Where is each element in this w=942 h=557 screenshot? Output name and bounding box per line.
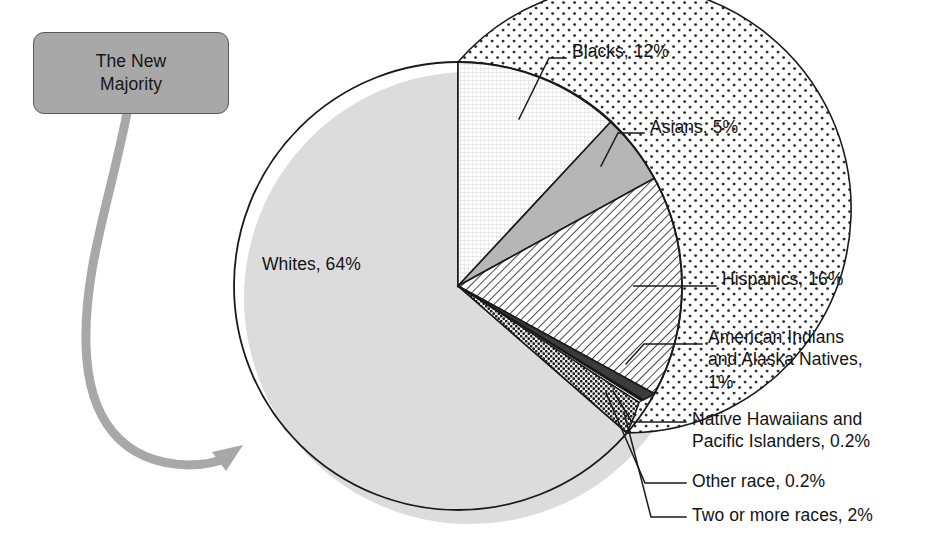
callout-box-label: The New Majority <box>96 50 167 97</box>
pie-label-blacks: Blacks, 12% <box>572 40 669 62</box>
pie-label-two-or-more: Two or more races, 2% <box>692 504 873 526</box>
pie-label-native-hawaiians: Native Hawaiians and Pacific Islanders, … <box>692 408 870 453</box>
figure-canvas: The New Majority Whites, 64% Blacks, 12%… <box>0 0 942 557</box>
pie-label-asians: Asians, 5% <box>650 116 738 138</box>
pie-label-whites: Whites, 64% <box>262 253 361 275</box>
callout-arrow <box>86 113 243 471</box>
callout-arrow-stem <box>86 113 229 465</box>
pie-label-american-indians: American Indians and Alaska Natives, 1% <box>708 326 863 393</box>
callout-box[interactable]: The New Majority <box>33 32 229 114</box>
pie-label-hispanics: Hispanics, 16% <box>722 268 843 290</box>
pie-label-other-race: Other race, 0.2% <box>692 470 825 492</box>
callout-arrow-head <box>212 445 243 471</box>
